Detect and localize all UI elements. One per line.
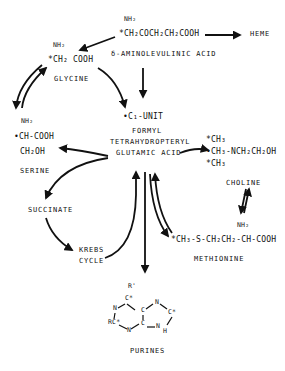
krebs-line1: KREBS [79, 247, 104, 254]
formyl-line3: GLUTAMIC ACID [116, 150, 181, 157]
arrow-formyl-to-choline [180, 149, 208, 153]
serine-label: SERINE [20, 168, 50, 175]
arrow-serine-to-glycine [22, 68, 46, 108]
serine-amine: NH₂ [21, 118, 33, 125]
purine-c6: C* [125, 295, 133, 302]
arrow-methionine-to-formyl [155, 174, 172, 233]
methionine-label: METHIONINE [194, 256, 244, 263]
purines-label: PURINES [130, 348, 165, 355]
purine-c8: C* [168, 309, 176, 316]
krebs-line2: CYCLE [79, 258, 104, 265]
glycine-amine: NH₂ [53, 42, 65, 49]
purine-n3: N [127, 327, 131, 334]
serine-side-chain: CH₂OH [20, 148, 45, 156]
purine-n7: N [155, 299, 159, 306]
serine-formula: •CH-COOH [14, 133, 54, 141]
choline-methyl-3: *CH₃ [206, 160, 226, 168]
ala-formula: *CH₂COCH₂CH₂COOH [119, 30, 199, 38]
arrow-succinate-to-krebs [46, 218, 72, 250]
glycine-formula: *CH₂ COOH [48, 56, 93, 64]
purine-c4: C [141, 320, 145, 327]
ala-label: δ-AMINOLEVULINIC ACID [111, 51, 216, 58]
ala-amine: NH₂ [124, 16, 136, 23]
choline-methyl-1: *CH₃ [206, 136, 226, 144]
methionine-formula: *CH₃-S-CH₂CH₂-CH-COOH [171, 236, 276, 244]
arrow-formyl-to-serine [60, 148, 108, 156]
choline-formula: •CH₃-NCH₂CH₂OH [206, 148, 276, 156]
purine-h: H [163, 328, 167, 335]
methionine-amine: NH₂ [237, 222, 249, 229]
arrow-krebs-to-formyl [105, 172, 136, 258]
purine-n9: N [156, 323, 160, 330]
arrow-ala-to-glycine [80, 37, 115, 50]
purine-c2: RC* [108, 319, 120, 326]
purine-n1: N [113, 305, 117, 312]
choline-label: CHOLINE [226, 180, 261, 187]
arrow-glycine-to-c1 [98, 68, 125, 107]
c1-unit-label: •C₁-UNIT [123, 113, 163, 121]
purine-r1: R' [128, 283, 136, 290]
glycine-label: GLYCINE [54, 76, 89, 83]
heme-label: HEME [250, 31, 270, 38]
formyl-line1: FORMYL [132, 128, 162, 135]
succinate-label: SUCCINATE [28, 207, 73, 214]
arrow-formyl-to-succinate [46, 158, 108, 198]
formyl-line2: TETRAHYDROPTERYL [110, 139, 190, 146]
purine-c5: C [141, 307, 145, 314]
